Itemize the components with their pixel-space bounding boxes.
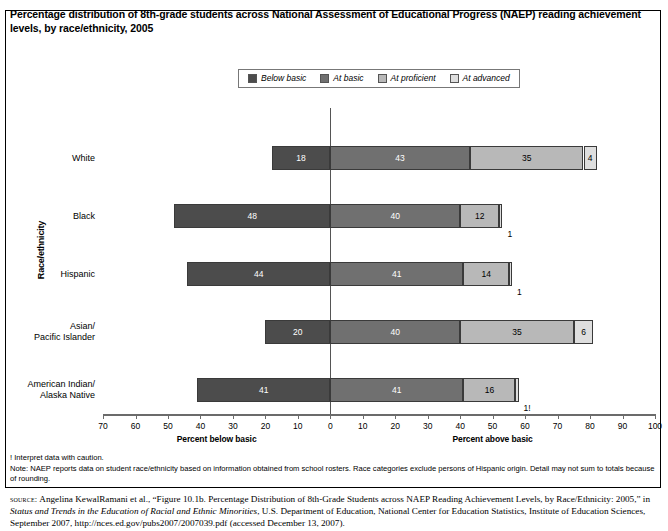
bar-segment-value: 35: [512, 327, 521, 337]
bar-segment-value: 16: [485, 385, 494, 395]
source-text-1: Angelina KewalRamani et al., “Figure 10.…: [37, 494, 650, 504]
stacked-bar: 2040356: [103, 320, 655, 344]
legend-item-adv: At advanced: [450, 73, 510, 83]
category-label-asian-pacific-islander: Asian/Pacific Islander: [0, 321, 95, 343]
bar-segment-below: 44: [187, 262, 330, 286]
x-axis-tick: [655, 414, 656, 419]
bar-row: 4141161!: [103, 360, 655, 418]
bar-segment-value: 18: [296, 153, 305, 163]
stacked-bar: 1843354: [103, 146, 655, 170]
x-axis-caption-right: Percent above basic: [452, 434, 532, 444]
bar-segment-value: 14: [481, 269, 490, 279]
bar-row: 2040356: [103, 302, 655, 360]
chart-note-1: ! Interpret data with caution.: [10, 453, 656, 464]
bar-row: 4441141: [103, 244, 655, 302]
bar-segment-below: 20: [265, 320, 330, 344]
bar-segment-value: 6: [581, 327, 586, 337]
category-label-line: Alaska Native: [0, 390, 95, 401]
bar-segment-basic: 41: [330, 262, 463, 286]
legend-label-adv: At advanced: [463, 73, 510, 83]
bar-segment-value: 43: [395, 153, 404, 163]
bar-segment-value: 20: [293, 327, 302, 337]
bar-segment-value: 12: [475, 211, 484, 221]
bar-row: 1843354: [103, 128, 655, 186]
category-label-line: American Indian/: [0, 379, 95, 390]
chart-notes: ! Interpret data with caution.Note: NAEP…: [10, 453, 656, 485]
bar-segment-below: 41: [197, 378, 330, 402]
bar-segment-below: 48: [174, 204, 330, 228]
legend-swatch-icon-adv: [450, 74, 459, 83]
bar-segment-prof: 35: [460, 320, 574, 344]
legend-item-below: Below basic: [248, 73, 306, 83]
y-axis-title: Race/ethnicity: [36, 200, 46, 300]
bar-segment-basic: 41: [330, 378, 463, 402]
chart-title: Percentage distribution of 8th-grade stu…: [10, 7, 646, 35]
bar-segment-value: 41: [392, 269, 401, 279]
source-citation: source: Angelina KewalRamani et al., “Fi…: [10, 494, 658, 529]
bar-segment-prof: 14: [463, 262, 509, 286]
bar-segment-prof: 35: [470, 146, 584, 170]
bar-segment-basic: 40: [330, 320, 460, 344]
category-label-line: Hispanic: [0, 269, 95, 280]
stacked-bar: 4441141: [103, 262, 655, 286]
category-axis-labels: WhiteBlackHispanicAsian/Pacific Islander…: [0, 108, 95, 416]
bar-segment-value: 40: [391, 211, 400, 221]
category-label-line: Asian/: [0, 321, 95, 332]
bar-row: 4840121: [103, 186, 655, 244]
bar-segment-prof: 12: [460, 204, 499, 228]
category-label-line: Pacific Islander: [0, 332, 95, 343]
bar-segment-value: 41: [392, 385, 401, 395]
bar-segment-value: 44: [254, 269, 263, 279]
category-label-american-indian-alaska-native: American Indian/Alaska Native: [0, 379, 95, 401]
legend-label-below: Below basic: [261, 73, 306, 83]
bar-segment-prof: 16: [463, 378, 515, 402]
legend-swatch-icon-prof: [378, 74, 387, 83]
category-label-line: Black: [0, 211, 95, 222]
legend-label-prof: At proficient: [391, 73, 436, 83]
bar-segment-value-adv-outside: 1: [517, 280, 522, 304]
bar-segment-adv: 4: [584, 146, 597, 170]
plot-area: 18433544840121444114120403564141161!: [103, 108, 655, 416]
source-italic-title: Status and Trends in the Education of Ra…: [10, 506, 257, 516]
category-label-hispanic: Hispanic: [0, 269, 95, 280]
legend-swatch-icon-below: [248, 74, 257, 83]
stacked-bar: 4141161!: [103, 378, 655, 402]
bar-segment-basic: 43: [330, 146, 470, 170]
bar-segment-below: 18: [272, 146, 330, 170]
bar-segment-adv: [499, 204, 502, 228]
category-label-white: White: [0, 153, 95, 164]
bar-segment-basic: 40: [330, 204, 460, 228]
bar-segment-value: 41: [259, 385, 268, 395]
bar-segment-adv: [515, 378, 518, 402]
legend-item-prof: At proficient: [378, 73, 436, 83]
bar-segment-value: 48: [248, 211, 257, 221]
bar-segment-value: 40: [391, 327, 400, 337]
legend-item-basic: At basic: [320, 73, 363, 83]
bar-segment-value-adv-outside: 1: [507, 222, 512, 246]
category-label-line: White: [0, 153, 95, 164]
bar-segment-adv: [509, 262, 512, 286]
chart-note-2: Note: NAEP reports data on student race/…: [10, 464, 656, 485]
bar-segment-value: 35: [522, 153, 531, 163]
legend-label-basic: At basic: [333, 73, 363, 83]
x-axis-captions: Percent below basicPercent above basic: [103, 414, 655, 448]
category-label-black: Black: [0, 211, 95, 222]
bar-segment-value: 4: [588, 153, 593, 163]
stacked-bar: 4840121: [103, 204, 655, 228]
bar-segment-adv: 6: [574, 320, 594, 344]
legend-swatch-icon-basic: [320, 74, 329, 83]
chart-legend: Below basicAt basicAt proficientAt advan…: [238, 69, 520, 88]
source-label: source:: [10, 494, 37, 504]
x-axis-caption-left: Percent below basic: [177, 434, 257, 444]
